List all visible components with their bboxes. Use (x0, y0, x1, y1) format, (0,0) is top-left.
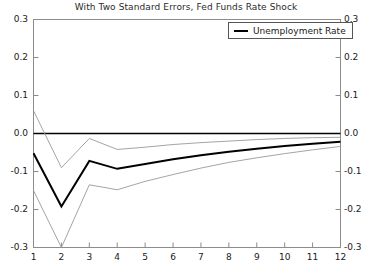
x-axis-tick-label: 12 (331, 252, 351, 262)
x-axis-tick-label: 11 (303, 252, 323, 262)
x-axis-tick-label: 9 (247, 252, 267, 262)
chart-legend: Unemployment Rate (228, 22, 353, 39)
y-axis-tick-label-right: 0.1 (344, 90, 372, 100)
chart-figure: With Two Standard Errors, Fed Funds Rate… (0, 0, 372, 279)
y-axis-tick-label-right: 0.0 (344, 128, 372, 138)
legend-label: Unemployment Rate (253, 26, 346, 36)
x-axis-tick-label: 6 (163, 252, 183, 262)
y-axis-tick-label-right: -0.3 (344, 242, 372, 252)
x-axis-tick-label: 8 (219, 252, 239, 262)
x-axis-tick-label: 1 (24, 252, 44, 262)
y-axis-tick-label-left: -0.1 (2, 166, 28, 176)
y-axis-tick-label-right: -0.1 (344, 166, 372, 176)
y-axis-tick-label-left: -0.2 (2, 204, 28, 214)
legend-line-swatch (234, 30, 248, 32)
x-axis-tick-label: 3 (79, 252, 99, 262)
x-axis-tick-label: 5 (135, 252, 155, 262)
y-axis-tick-label-left: 0.0 (2, 128, 28, 138)
y-axis-tick-label-right: 0.2 (344, 52, 372, 62)
y-axis-tick-label-right: -0.2 (344, 204, 372, 214)
x-axis-tick-label: 4 (107, 252, 127, 262)
x-axis-tick-label: 2 (51, 252, 71, 262)
x-axis-tick-label: 10 (275, 252, 295, 262)
plot-area (33, 19, 341, 248)
x-axis-tick-label: 7 (191, 252, 211, 262)
y-axis-tick-label-left: -0.3 (2, 242, 28, 252)
y-axis-tick-label-left: 0.3 (2, 14, 28, 24)
y-axis-tick-label-left: 0.2 (2, 52, 28, 62)
y-axis-tick-label-right: 0.3 (344, 14, 372, 24)
chart-title: With Two Standard Errors, Fed Funds Rate… (0, 2, 372, 12)
plot-svg (33, 19, 341, 248)
y-axis-tick-label-left: 0.1 (2, 90, 28, 100)
